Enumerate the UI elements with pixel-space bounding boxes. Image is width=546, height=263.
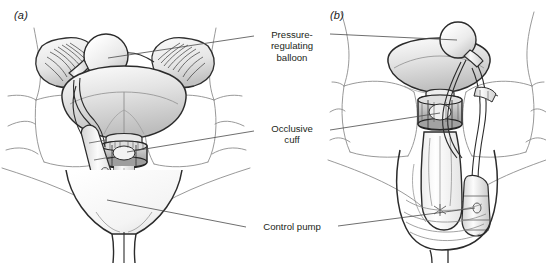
tubing-connector-b	[474, 87, 496, 102]
figure-artificial-urinary-sphincter: (a) (b) Pressure- regulating balloon Occ…	[0, 0, 546, 263]
leader-balloon-right	[330, 34, 457, 40]
callout-balloon-line-2: regulating	[256, 40, 328, 51]
callout-pressure-regulating-balloon: Pressure- regulating balloon	[256, 29, 328, 63]
callout-occlusive-cuff: Occlusive cuff	[256, 123, 328, 146]
panel-a-illustration	[2, 28, 250, 263]
callout-balloon-line-1: Pressure-	[256, 29, 328, 40]
callout-balloon-line-3: balloon	[256, 52, 328, 63]
panel-label-b: (b)	[330, 9, 344, 21]
penis-b	[421, 132, 462, 230]
callout-pump-line-1: Control pump	[248, 221, 336, 232]
callout-cuff-line-1: Occlusive	[256, 123, 328, 134]
bladder-a	[62, 66, 186, 139]
panel-b-illustration	[328, 12, 546, 263]
occlusive-cuff-b	[418, 95, 462, 130]
scrotum-a	[66, 170, 182, 263]
callout-control-pump: Control pump	[248, 221, 336, 232]
panel-label-a: (a)	[14, 9, 28, 21]
callout-cuff-line-2: cuff	[256, 134, 328, 145]
